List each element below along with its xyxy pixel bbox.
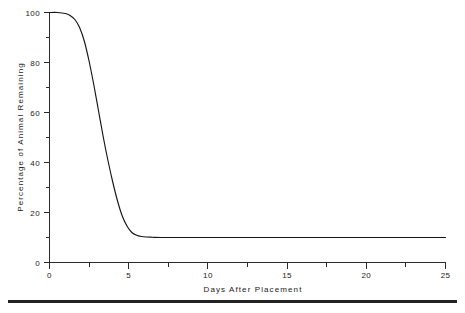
x-tick-label-20: 20 — [361, 271, 371, 280]
x-tick-label-25: 25 — [441, 271, 451, 280]
y-tick-label-80: 80 — [30, 59, 40, 68]
x-axis-title: Days After Placement — [204, 285, 303, 294]
chart-page: 100 80 60 40 20 0 Percentage of Animal R… — [0, 0, 465, 313]
chart-background — [0, 0, 465, 313]
y-tick-label-60: 60 — [30, 109, 40, 118]
y-axis-title: Percentage of Animal Remaining — [16, 62, 25, 212]
survival-decay-chart: 100 80 60 40 20 0 Percentage of Animal R… — [0, 0, 465, 313]
y-tick-label-20: 20 — [30, 209, 40, 218]
y-tick-label-0: 0 — [35, 259, 40, 268]
y-tick-label-40: 40 — [30, 159, 40, 168]
x-tick-label-0: 0 — [47, 271, 52, 280]
x-tick-label-10: 10 — [203, 271, 213, 280]
y-tick-label-100: 100 — [25, 9, 40, 18]
x-tick-label-15: 15 — [282, 271, 292, 280]
x-tick-label-5: 5 — [126, 271, 131, 280]
